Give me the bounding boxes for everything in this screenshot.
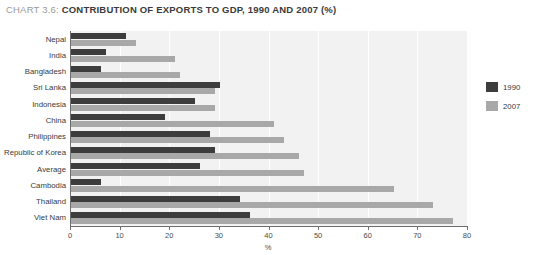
bar-2007 [71,72,180,78]
x-axis-tick-label: 80 [463,231,471,240]
legend-swatch-2007 [486,101,498,111]
x-axis-tick-label: 60 [364,231,372,240]
legend-item-1990: 1990 [486,82,520,92]
legend-label-2007: 2007 [503,102,520,111]
x-axis-tick-label: 0 [68,231,72,240]
chart-title: CHART 3.6: CONTRIBUTION OF EXPORTS TO GD… [6,4,336,15]
bar-1990 [71,131,210,137]
bar-1990 [71,179,101,185]
gridline [368,31,369,227]
category-label: Average [37,166,66,174]
x-axis-tick-label: 70 [413,231,421,240]
category-label: Philippines [28,133,66,141]
gridline [318,31,319,227]
bar-1990 [71,114,165,120]
category-label: Viet Nam [34,214,66,222]
gridline [269,31,270,227]
bar-2007 [71,218,453,224]
bar-1990 [71,98,195,104]
bar-1990 [71,196,240,202]
x-axis-tick-label: 40 [264,231,272,240]
y-axis-line [70,31,71,227]
bar-2007 [71,202,433,208]
x-axis-tick-mark [169,226,170,230]
category-label: Sri Lanka [33,84,66,92]
x-axis-tick-label: 20 [165,231,173,240]
bar-1990 [71,163,200,169]
bar-1990 [71,82,220,88]
gridline [417,31,418,227]
bar-1990 [71,212,250,218]
x-axis-tick-label: 30 [215,231,223,240]
category-label: Indonesia [32,101,66,109]
bar-1990 [71,66,101,72]
x-axis-tick-mark [70,226,71,230]
bar-2007 [71,88,215,94]
chart-title-main: CONTRIBUTION OF EXPORTS TO GDP, 1990 AND… [62,4,337,15]
legend-item-2007: 2007 [486,101,520,111]
x-axis-tick-label: 10 [115,231,123,240]
category-label: Republic of Korea [4,149,66,157]
x-axis-tick-mark [417,226,418,230]
bar-2007 [71,170,304,176]
chart-container: CHART 3.6: CONTRIBUTION OF EXPORTS TO GD… [0,0,542,255]
legend-label-1990: 1990 [503,83,520,92]
x-axis-tick-mark [269,226,270,230]
x-axis-tick-mark [219,226,220,230]
bar-2007 [71,153,299,159]
x-axis-tick-label: 50 [314,231,322,240]
category-label: Nepal [46,36,66,44]
legend-swatch-1990 [486,82,498,92]
bar-2007 [71,56,175,62]
x-axis-tick-mark [368,226,369,230]
chart-legend: 1990 2007 [486,82,520,120]
chart-title-prefix: CHART 3.6: [6,4,59,15]
bar-1990 [71,49,106,55]
bar-2007 [71,137,284,143]
bar-2007 [71,105,215,111]
category-label: China [46,117,66,125]
bar-2007 [71,40,136,46]
gridline [467,31,468,227]
category-label: Bangladesh [25,68,66,76]
bar-1990 [71,33,126,39]
bar-1990 [71,147,215,153]
bar-2007 [71,186,394,192]
x-axis-tick-mark [318,226,319,230]
category-label: Thailand [36,198,66,206]
bar-2007 [71,121,274,127]
category-label: Cambodia [30,182,66,190]
category-label: India [49,52,66,60]
x-axis-title: % [265,243,272,252]
x-axis-tick-mark [467,226,468,230]
x-axis-tick-mark [120,226,121,230]
